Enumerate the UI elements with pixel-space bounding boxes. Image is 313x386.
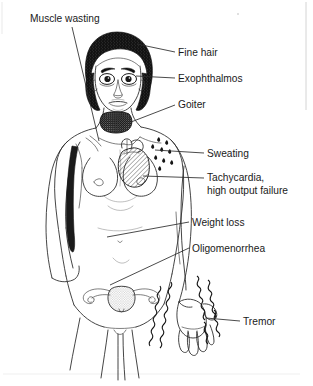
leader-exophthalmos bbox=[136, 76, 175, 78]
head-part bbox=[85, 32, 152, 112]
label-exophthalmos: Exophthalmos bbox=[178, 73, 243, 84]
body-figure bbox=[46, 32, 220, 380]
thyroid-gland-goiter bbox=[100, 112, 132, 133]
clinical-figure-thyrotoxicosis: Muscle wasting Fine hair Exophthalmos Go… bbox=[0, 0, 313, 386]
label-weight-loss: Weight loss bbox=[192, 217, 244, 228]
label-tachycardia: Tachycardia, bbox=[207, 172, 264, 183]
uterus-organ bbox=[83, 286, 160, 312]
label-goiter: Goiter bbox=[178, 99, 206, 110]
leader-oligomenorrhea bbox=[110, 248, 189, 285]
raised-arm-muscle-wasting bbox=[46, 136, 101, 282]
label-oligomenorrhea: Oligomenorrhea bbox=[192, 243, 265, 254]
label-tachycardia-line2: high output failure bbox=[207, 185, 288, 196]
leader-weight-loss bbox=[107, 222, 189, 237]
label-tremor: Tremor bbox=[243, 316, 276, 327]
heart-organ bbox=[118, 139, 149, 187]
label-sweating: Sweating bbox=[207, 148, 249, 159]
label-muscle-wasting: Muscle wasting bbox=[30, 13, 100, 24]
leader-tremor bbox=[206, 318, 240, 321]
label-fine-hair: Fine hair bbox=[178, 47, 218, 58]
anatomical-illustration-svg: Muscle wasting Fine hair Exophthalmos Go… bbox=[0, 0, 313, 386]
tremor-squiggle-lines bbox=[149, 276, 220, 348]
hand-with-tremor bbox=[149, 276, 220, 355]
leader-tachycardia bbox=[143, 176, 204, 178]
